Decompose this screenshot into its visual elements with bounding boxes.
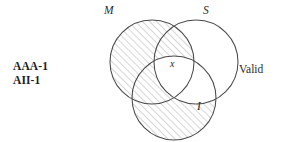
- syllogism-form-aaa1: AAA-1: [13, 60, 48, 74]
- syllogism-form-aii1: AII-1: [13, 74, 48, 88]
- circle-label-s: S: [203, 4, 209, 16]
- x-mark: x: [170, 58, 174, 69]
- validity-label: Valid: [239, 63, 263, 75]
- circle-label-m: M: [104, 4, 114, 16]
- syllogism-form-list: AAA-1 AII-1: [13, 60, 48, 87]
- circle-label-i: I: [197, 100, 201, 112]
